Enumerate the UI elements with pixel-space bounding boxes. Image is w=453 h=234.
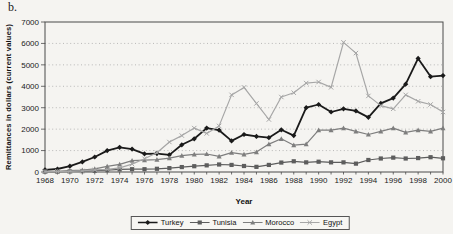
diamond-marker-turkey <box>117 145 122 150</box>
remittances-line-chart: 0100020003000400050006000700019681970197… <box>0 0 453 212</box>
x-marker-egypt <box>180 133 184 137</box>
square-marker-tunisia <box>267 163 271 167</box>
y-axis-title: Remittances in dollars (current values) <box>4 24 13 170</box>
square-marker-tunisia <box>142 167 146 171</box>
square-marker-tunisia <box>391 156 395 160</box>
diamond-marker-turkey <box>440 73 445 78</box>
x-tick-label: 1968 <box>36 176 54 185</box>
x-tick-label: 1984 <box>235 176 253 185</box>
x-marker-egypt <box>167 140 171 144</box>
legend-item-turkey: Turkey <box>138 218 184 227</box>
x-marker-egypt <box>204 131 208 135</box>
y-tick-label: 3000 <box>21 104 39 113</box>
y-tick-label: 5000 <box>21 61 39 70</box>
square-marker-tunisia <box>217 162 221 166</box>
x-tick-label: 1986 <box>260 176 278 185</box>
x-tick-label: 1988 <box>285 176 303 185</box>
legend-item-morocco: Morocco <box>242 218 294 227</box>
figure-panel-b: b. 0100020003000400050006000700019681970… <box>0 0 453 234</box>
legend-label-tunisia: Tunisia <box>212 218 236 227</box>
square-marker-tunisia <box>304 160 308 164</box>
x-tick-label: 1974 <box>111 176 129 185</box>
square-marker-tunisia <box>229 163 233 167</box>
x-marker-egypt <box>192 126 196 130</box>
square-marker-tunisia <box>317 160 321 164</box>
x-marker-egypt <box>254 101 258 105</box>
legend-item-tunisia: Tunisia <box>189 218 236 227</box>
x-marker-icon <box>300 218 320 227</box>
x-tick-label: 1990 <box>310 176 328 185</box>
y-tick-label: 1000 <box>21 146 39 155</box>
x-tick-label: 1978 <box>160 176 178 185</box>
x-tick-label: 1994 <box>359 176 377 185</box>
square-marker-tunisia <box>192 164 196 168</box>
square-marker-tunisia <box>180 165 184 169</box>
x-axis-title: Year <box>45 197 443 206</box>
square-marker-tunisia <box>441 156 445 160</box>
x-tick-label: 2000 <box>434 176 452 185</box>
square-marker-icon <box>189 218 209 227</box>
legend: TurkeyTunisiaMoroccoEgypt <box>131 216 350 230</box>
square-marker-tunisia <box>404 156 408 160</box>
x-tick-label: 1972 <box>86 176 104 185</box>
triangle-marker-morocco <box>279 136 284 141</box>
diamond-marker-turkey <box>129 146 134 151</box>
square-marker-tunisia <box>155 167 159 171</box>
x-tick-label: 1998 <box>409 176 427 185</box>
legend-label-morocco: Morocco <box>265 218 294 227</box>
square-marker-tunisia <box>292 159 296 163</box>
square-marker-tunisia <box>329 160 333 164</box>
square-marker-tunisia <box>428 155 432 159</box>
x-tick-label: 1970 <box>61 176 79 185</box>
square-marker-tunisia <box>279 160 283 164</box>
diamond-marker-turkey <box>142 151 147 156</box>
x-marker-egypt <box>403 93 407 97</box>
x-tick-label: 1982 <box>210 176 228 185</box>
legend-item-egypt: Egypt <box>300 218 342 227</box>
y-tick-label: 6000 <box>21 39 39 48</box>
legend-label-egypt: Egypt <box>323 218 342 227</box>
square-marker-tunisia <box>366 158 370 162</box>
square-marker-tunisia <box>416 156 420 160</box>
diamond-marker-turkey <box>304 105 309 110</box>
square-marker-tunisia <box>167 166 171 170</box>
y-tick-label: 4000 <box>21 82 39 91</box>
triangle-marker-morocco <box>391 125 396 130</box>
x-tick-label: 1980 <box>185 176 203 185</box>
diamond-marker-turkey <box>254 134 259 139</box>
y-tick-label: 7000 <box>21 18 39 27</box>
legend-label-turkey: Turkey <box>161 218 184 227</box>
x-tick-label: 1992 <box>335 176 353 185</box>
plot-border <box>45 22 443 172</box>
square-marker-tunisia <box>379 156 383 160</box>
square-marker-tunisia <box>205 163 209 167</box>
y-tick-label: 2000 <box>21 125 39 134</box>
triangle-marker-icon <box>242 218 262 227</box>
square-marker-tunisia <box>354 162 358 166</box>
x-tick-label: 1976 <box>136 176 154 185</box>
diamond-marker-icon <box>138 218 158 227</box>
diamond-marker-turkey <box>80 159 85 164</box>
x-marker-egypt <box>267 117 271 121</box>
diamond-marker-turkey <box>341 106 346 111</box>
triangle-marker-morocco <box>441 125 446 130</box>
x-tick-label: 1996 <box>384 176 402 185</box>
square-marker-tunisia <box>242 164 246 168</box>
square-marker-tunisia <box>130 167 134 171</box>
square-marker-tunisia <box>254 165 258 169</box>
x-marker-egypt <box>242 85 246 89</box>
square-marker-tunisia <box>341 160 345 164</box>
